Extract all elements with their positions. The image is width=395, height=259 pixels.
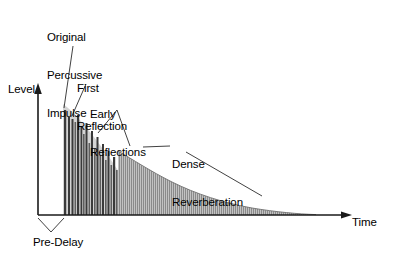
annotation-line: Early (90, 108, 146, 121)
leader-dense-reverberation (143, 146, 170, 147)
annotation-line: Dense (172, 158, 243, 171)
annotation-line: Reflections (90, 146, 146, 159)
annotation-line: Reverberation (172, 196, 243, 209)
y-axis (34, 83, 42, 215)
reverberation-diagram: Level Time Pre-Delay Original Percussive… (0, 0, 395, 259)
annotation-line: Original (47, 31, 102, 44)
pre-delay-label: Pre-Delay (33, 236, 83, 249)
x-axis-label: Time (352, 216, 377, 229)
annotation-dense-reverberation: Dense Reverberation (172, 133, 243, 234)
pre-delay-bracket (38, 218, 64, 232)
y-axis-label: Level (8, 83, 35, 96)
annotation-early-reflections: Early Reflections (90, 83, 146, 184)
